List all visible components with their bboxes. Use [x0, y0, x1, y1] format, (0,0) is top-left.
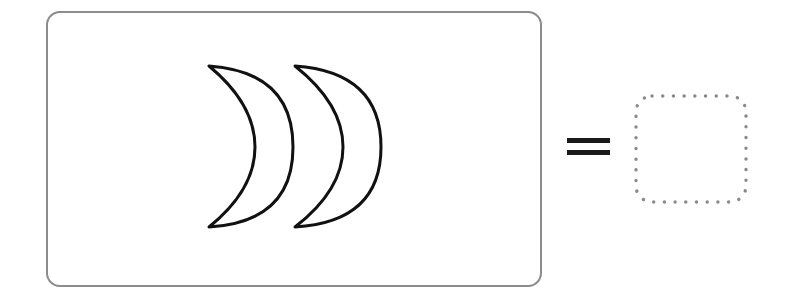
equals-bar-bottom [567, 150, 610, 155]
crescent-moon-icon [209, 66, 293, 227]
dotted-box-icon[interactable] [628, 88, 754, 210]
crescent-moon-icon [295, 66, 381, 227]
equals-bar-top [567, 138, 610, 143]
